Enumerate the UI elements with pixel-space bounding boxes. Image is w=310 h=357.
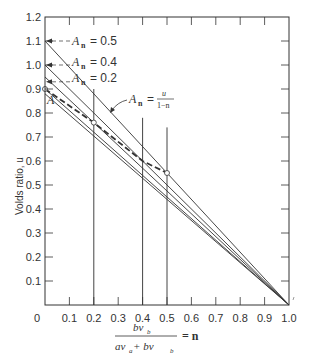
- svg-text:bv: bv: [133, 321, 144, 333]
- svg-text:n: n: [81, 78, 86, 87]
- x-tick-label: 0.3: [111, 312, 126, 324]
- svg-text:=: =: [147, 92, 154, 106]
- x-tick-label: 0.5: [159, 312, 174, 324]
- svg-text:A: A: [71, 71, 80, 85]
- svg-text:A: A: [128, 92, 137, 106]
- svg-text:n: n: [138, 99, 143, 108]
- y-tick-label: 0.2: [26, 251, 41, 263]
- y-axis-label: Volds ratio, u: [14, 157, 25, 215]
- x-axis-label: bv b av a + bv b = n: [115, 321, 199, 355]
- ann-value-05: = 0.5: [90, 34, 117, 48]
- y-tick-label: 1.0: [26, 59, 41, 71]
- axes: 00.10.20.30.40.50.60.70.80.91.00.10.20.3…: [26, 11, 297, 324]
- x-tick-label: 0: [34, 312, 40, 324]
- svg-text:= n: = n: [182, 329, 199, 343]
- svg-text:u: u: [162, 89, 166, 98]
- y-tick-label: 1.1: [26, 35, 41, 47]
- svg-text:b: b: [170, 347, 174, 355]
- x-tick-label: 1.0: [281, 312, 296, 324]
- y-tick-label: 0.6: [26, 155, 41, 167]
- x-tick-label: 0.6: [184, 312, 199, 324]
- y-tick-label: 0.5: [26, 179, 41, 191]
- y-tick-label: 0.1: [26, 275, 41, 287]
- annotation-a-05: A n = 0.5: [71, 34, 117, 50]
- annotation-a-02: A n = 0.2: [71, 71, 117, 87]
- x-tick-label: 0.9: [257, 312, 272, 324]
- x-tick-label: 0.2: [86, 312, 101, 324]
- curve-point: [91, 120, 96, 125]
- svg-text:av: av: [115, 340, 126, 352]
- y-tick-label: 0.9: [26, 83, 41, 95]
- svg-text:n: n: [81, 41, 86, 50]
- y-tick-label: 0.7: [26, 131, 41, 143]
- y-tick-label: 0.8: [26, 107, 41, 119]
- ann-value-04: = 0.4: [90, 55, 117, 69]
- x-tick-label: 0.1: [62, 312, 77, 324]
- x-tick-label: 0.8: [233, 312, 248, 324]
- svg-text:+ bv: + bv: [133, 340, 154, 352]
- y-tick-label: 1.2: [26, 11, 41, 23]
- ann-value-02: = 0.2: [90, 71, 117, 85]
- annotation-a-04: A n = 0.4: [71, 55, 117, 71]
- curve-label: A n = u 1−n: [110, 89, 174, 113]
- svg-text:n: n: [81, 62, 86, 71]
- svg-text:A: A: [71, 55, 80, 69]
- y-tick-label: 0.4: [26, 203, 41, 215]
- y-tick-label: 0.3: [26, 227, 41, 239]
- svg-text:b: b: [147, 328, 151, 336]
- chart: 00.10.20.30.40.50.60.70.80.91.00.10.20.3…: [0, 0, 310, 357]
- x-tick-label: 0.7: [208, 312, 223, 324]
- plot-area: [43, 41, 290, 305]
- ann-a-symbol: A: [71, 34, 80, 48]
- svg-text:1−n: 1−n: [157, 101, 170, 110]
- curve-point: [165, 171, 170, 176]
- point-a-label: A: [46, 93, 55, 107]
